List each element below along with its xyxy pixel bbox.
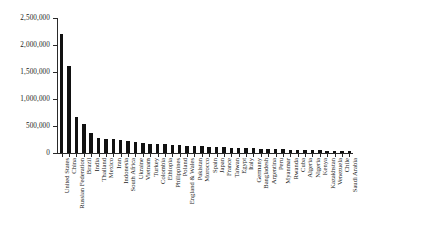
- bar-slot: [244, 18, 247, 153]
- bar: [89, 133, 92, 153]
- y-tick-label: 500,000: [26, 122, 50, 130]
- x-tick-mark: [113, 154, 114, 157]
- x-tick-mark: [209, 154, 210, 157]
- x-tick-mark: [99, 154, 100, 157]
- x-tick-mark: [246, 154, 247, 157]
- bar: [126, 141, 129, 153]
- bar: [67, 66, 70, 153]
- x-tick-mark: [143, 154, 144, 157]
- bar: [340, 151, 343, 153]
- x-tick-label: Vietnam: [145, 158, 152, 180]
- y-tick-label: 2,000,000: [20, 41, 50, 49]
- bar-slot: [82, 18, 85, 153]
- bar-slot: [178, 18, 181, 153]
- x-tick-label: France: [226, 158, 233, 176]
- x-tick-label: Bangladesh: [263, 158, 270, 189]
- bar: [200, 146, 203, 153]
- bar: [222, 147, 225, 153]
- x-tick-mark: [335, 154, 336, 157]
- x-tick-mark: [305, 154, 306, 157]
- bar: [193, 146, 196, 153]
- bar-slot: [333, 18, 336, 153]
- x-tick-mark: [106, 154, 107, 157]
- y-tick-mark: [53, 18, 57, 19]
- y-tick-label: 1,000,000: [20, 95, 50, 103]
- x-tick-mark: [298, 154, 299, 157]
- x-tick-mark: [261, 154, 262, 157]
- y-tick-mark: [53, 153, 57, 154]
- x-tick-label: Morocco: [204, 158, 211, 182]
- x-tick-label: Kenya: [322, 158, 329, 175]
- bar: [244, 148, 247, 153]
- bar-slot: [112, 18, 115, 153]
- y-axis-tick-labels: 0500,0001,000,0001,500,0002,000,0002,500…: [0, 0, 53, 160]
- bar-slot: [237, 18, 240, 153]
- bar-slot: [325, 18, 328, 153]
- bar: [185, 146, 188, 153]
- bar-slot: [126, 18, 129, 153]
- y-tick-mark: [53, 99, 57, 100]
- x-tick-mark: [84, 154, 85, 157]
- x-tick-mark: [165, 154, 166, 157]
- bar-slot: [303, 18, 306, 153]
- bar: [311, 150, 314, 153]
- bar: [325, 151, 328, 153]
- x-tick-mark: [290, 154, 291, 157]
- x-tick-mark: [342, 154, 343, 157]
- bar-slot: [171, 18, 174, 153]
- bar-slot: [259, 18, 262, 153]
- bar: [148, 144, 151, 153]
- bar: [112, 139, 115, 153]
- y-tick-label: 1,500,000: [20, 68, 50, 76]
- x-tick-label: Saudi Arabia: [352, 158, 359, 192]
- bar-slot: [104, 18, 107, 153]
- bar-slot: [60, 18, 63, 153]
- bar: [266, 149, 269, 153]
- bar: [82, 124, 85, 153]
- bar: [97, 138, 100, 153]
- x-tick-label: Brazil: [86, 158, 93, 174]
- x-tick-mark: [194, 154, 195, 157]
- bar-slot: [97, 18, 100, 153]
- bar: [75, 117, 78, 153]
- x-axis-tick-labels: United StatesChinaRussian FederationBraz…: [58, 158, 353, 230]
- bar-slot: [266, 18, 269, 153]
- x-tick-mark: [172, 154, 173, 157]
- bar: [296, 150, 299, 153]
- x-tick-label: Chile: [344, 158, 351, 172]
- x-tick-mark: [231, 154, 232, 157]
- bar: [259, 149, 262, 153]
- bar: [134, 142, 137, 153]
- x-tick-mark: [202, 154, 203, 157]
- x-tick-label: Mexico: [108, 158, 115, 178]
- bar-slot: [193, 18, 196, 153]
- x-tick-mark: [69, 154, 70, 157]
- bar: [281, 149, 284, 153]
- bar-slot: [281, 18, 284, 153]
- bar-slot: [75, 18, 78, 153]
- bar: [333, 151, 336, 153]
- bar-slot: [348, 18, 351, 153]
- y-tick-label: 2,500,000: [20, 14, 50, 22]
- bar-slot: [222, 18, 225, 153]
- bar: [289, 150, 292, 153]
- bar: [348, 151, 351, 153]
- x-tick-mark: [276, 154, 277, 157]
- x-tick-mark: [224, 154, 225, 157]
- bar: [318, 150, 321, 153]
- bar: [303, 150, 306, 153]
- bar: [141, 143, 144, 153]
- bar-slot: [274, 18, 277, 153]
- x-tick-mark: [180, 154, 181, 157]
- y-tick-mark: [53, 45, 57, 46]
- x-tick-mark: [187, 154, 188, 157]
- bar-chart: 0500,0001,000,0001,500,0002,000,0002,500…: [0, 0, 436, 231]
- bar-slot: [148, 18, 151, 153]
- x-tick-mark: [312, 154, 313, 157]
- bar-slot: [134, 18, 137, 153]
- bar-slot: [141, 18, 144, 153]
- bar-slot: [200, 18, 203, 153]
- bar-slot: [311, 18, 314, 153]
- x-tick-mark: [349, 154, 350, 157]
- x-tick-mark: [91, 154, 92, 157]
